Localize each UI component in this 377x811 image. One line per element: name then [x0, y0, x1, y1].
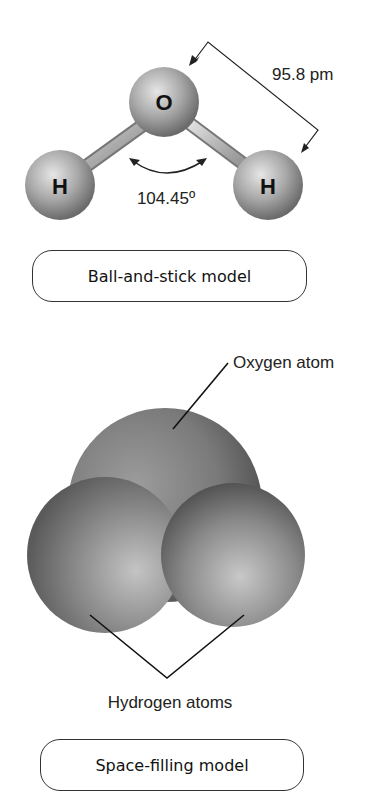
water-molecule-diagram: O H H 95.8 pm 104.45º Oxygen atom Hydrog…: [0, 0, 377, 811]
hydrogen-atoms-label: Hydrogen atoms: [108, 693, 233, 712]
ball-and-stick-model: O H H 95.8 pm 104.45º: [25, 42, 333, 220]
hydrogen-symbol-left: H: [52, 174, 68, 199]
space-filling-caption: Space-filling model: [40, 739, 304, 791]
bond-angle-arc: [133, 161, 203, 173]
ball-and-stick-caption-text: Ball-and-stick model: [88, 267, 251, 286]
oxygen-symbol: O: [155, 90, 172, 115]
bond-angle-label: 104.45º: [137, 189, 195, 208]
space-filling-caption-text: Space-filling model: [95, 756, 248, 775]
oxygen-atom-label: Oxygen atom: [233, 353, 334, 372]
hydrogen-sphere-right: [161, 483, 305, 627]
hydrogen-symbol-right: H: [260, 174, 276, 199]
hydrogen-sphere-left: [27, 477, 183, 633]
space-filling-model: Oxygen atom Hydrogen atoms: [27, 353, 334, 712]
bond-length-label: 95.8 pm: [272, 65, 333, 84]
ball-and-stick-caption: Ball-and-stick model: [32, 250, 307, 302]
